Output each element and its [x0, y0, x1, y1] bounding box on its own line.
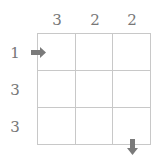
puzzle-grid [37, 33, 151, 145]
row-clue-3: 3 [5, 119, 25, 135]
column-clue-3: 2 [122, 12, 142, 28]
grid-cell-r2c1[interactable] [38, 71, 76, 108]
entry-arrow-right-icon [31, 47, 46, 58]
grid-cell-r3c1[interactable] [38, 108, 76, 145]
column-clue-2: 2 [85, 12, 105, 28]
grid-cell-r1c2[interactable] [76, 34, 114, 71]
grid-cell-r1c3[interactable] [113, 34, 151, 71]
exit-arrow-down-icon [127, 139, 138, 155]
row-clue-2: 3 [5, 82, 25, 98]
grid-cell-r3c2[interactable] [76, 108, 114, 145]
column-clue-1: 3 [47, 12, 67, 28]
row-clue-1: 1 [5, 45, 25, 61]
grid-cell-r2c2[interactable] [76, 71, 114, 108]
grid-cell-r2c3[interactable] [113, 71, 151, 108]
